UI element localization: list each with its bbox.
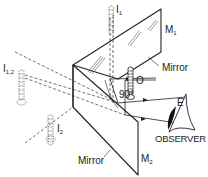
label-observer: OBSERVER	[155, 133, 206, 144]
label-angle: 90°	[119, 89, 134, 100]
label-m1: M1	[165, 24, 177, 36]
label-m2: M2	[141, 153, 153, 165]
label-i1: I1	[116, 4, 123, 16]
corner-mirror-diagram: I1 I1,2 I2 M1 M2 Mirror Mirror O 90° E O…	[0, 0, 208, 177]
image-i2	[46, 115, 55, 145]
label-mirror-upper: Mirror	[162, 62, 189, 73]
label-i2: I2	[57, 123, 64, 135]
mirror-m1	[73, 9, 161, 79]
label-eye: E	[177, 97, 184, 108]
label-object: O	[136, 75, 144, 86]
image-i12	[17, 70, 26, 105]
label-i12: I1,2	[3, 63, 15, 75]
label-mirror-lower: Mirror	[78, 155, 105, 166]
